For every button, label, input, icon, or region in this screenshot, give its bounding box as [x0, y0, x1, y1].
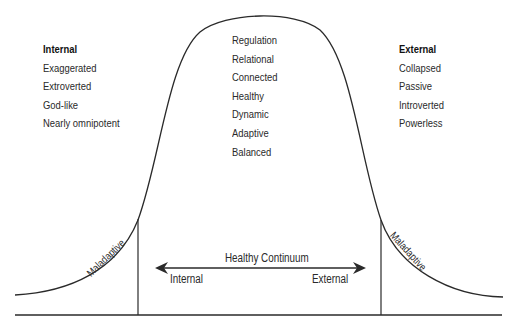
healthy-trait: Adaptive: [232, 124, 278, 143]
internal-item: God-like: [43, 96, 120, 115]
continuum-title: Healthy Continuum: [225, 251, 309, 265]
external-item: Passive: [399, 77, 444, 96]
healthy-trait: Regulation: [232, 31, 278, 50]
internal-item: Extroverted: [43, 77, 120, 96]
internal-heading: Internal: [43, 40, 120, 59]
healthy-trait: Healthy: [232, 87, 278, 106]
internal-item: Exaggerated: [43, 59, 120, 78]
external-item: Introverted: [399, 96, 444, 115]
external-item: Powerless: [399, 114, 444, 133]
continuum-left-end: Internal: [170, 272, 203, 286]
internal-item: Nearly omnipotent: [43, 114, 120, 133]
healthy-trait: Balanced: [232, 143, 278, 162]
external-heading: External: [399, 40, 444, 59]
healthy-trait: Connected: [232, 68, 278, 87]
healthy-traits-group: Regulation Relational Connected Healthy …: [232, 31, 278, 161]
external-group: External Collapsed Passive Introverted P…: [399, 40, 444, 133]
external-item: Collapsed: [399, 59, 444, 78]
continuum-right-end: External: [312, 272, 348, 286]
healthy-trait: Dynamic: [232, 105, 278, 124]
healthy-trait: Relational: [232, 50, 278, 69]
internal-group: Internal Exaggerated Extroverted God-lik…: [43, 40, 120, 133]
